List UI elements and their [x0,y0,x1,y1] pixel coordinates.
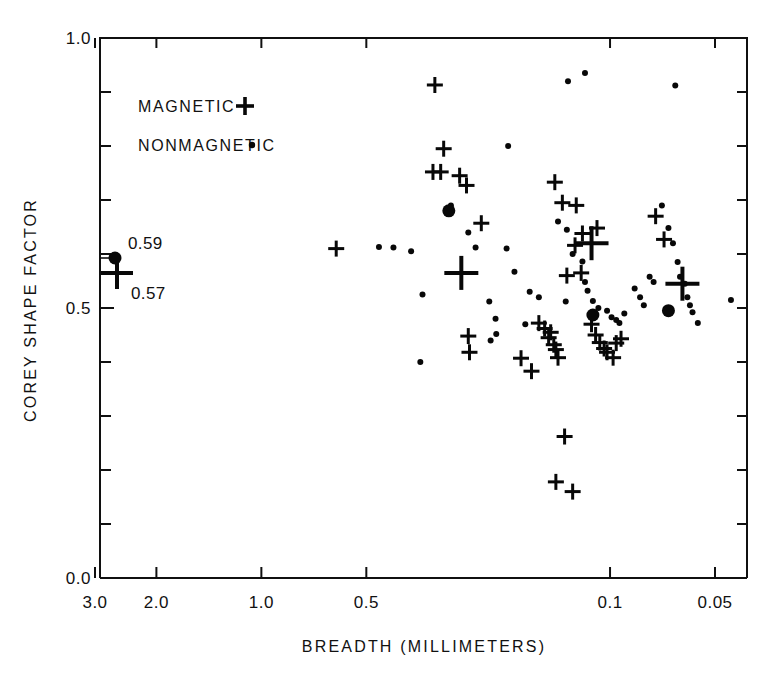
data-point-cross [554,195,570,211]
data-point-dot [465,229,471,235]
data-point-dot [473,245,479,251]
data-point-dot [504,246,510,252]
data-point-dot [390,245,396,251]
y-axis-tick-labels: 1.00.50.0 [66,29,91,588]
legend-marker-cross-icon [236,97,254,115]
x-tick-label: 2.0 [144,593,169,612]
data-points-layer [328,70,734,500]
x-axis-ticks [95,38,715,578]
data-point-dot [632,286,638,292]
series-magnetic-group-means [444,226,699,301]
data-point-cross [433,164,449,180]
data-point-cross [568,197,584,213]
data-point-dot [582,279,588,285]
data-point-dot [505,143,511,149]
data-point-dot [493,316,499,322]
x-axis-title: BREADTH (MILLIMETERS) [302,638,546,655]
data-point-dot [675,259,681,265]
data-point-cross [559,268,575,284]
data-point-dot [408,248,414,254]
data-point-dot [695,320,701,326]
annotation-label-0-59: 0.59 [128,234,163,253]
data-point-dot [417,359,423,365]
data-point-cross [567,237,583,253]
data-point-cross [648,208,664,224]
x-tick-label: 0.05 [697,593,732,612]
data-point-cross [557,429,573,445]
data-point-cross [461,344,477,360]
data-point-cross [523,363,539,379]
data-point-dot [585,288,591,294]
data-point-dot [651,279,657,285]
data-point-dot [616,320,622,326]
y-axis-ticks [100,38,747,578]
x-tick-label: 1.0 [249,593,274,612]
data-point-dot [728,297,734,303]
data-point-dot [536,294,542,300]
data-point-dot [488,337,494,343]
data-point-group-mean-cross [575,226,609,260]
y-tick-label: 0.0 [66,569,91,588]
data-point-cross [565,484,581,500]
data-point-cross [436,141,452,157]
data-point-cross [328,241,344,257]
data-point-dot [659,202,665,208]
data-point-dot [621,310,627,316]
data-point-cross [513,350,529,366]
data-point-dot [420,292,426,298]
scatter-plot: 3.02.01.00.50.10.05 1.00.50.0 0.590.57 M… [0,0,783,689]
series-nonmagnetic [376,70,734,365]
y-axis-title: COREY SHAPE FACTOR [22,198,39,422]
data-point-dot [486,299,492,305]
x-tick-label: 3.0 [82,593,107,612]
data-point-dot [647,274,653,280]
data-point-dot [687,302,693,308]
data-point-group-mean-dot [662,304,675,317]
data-point-cross [460,328,476,344]
data-point-dot [665,225,671,231]
data-point-cross [547,174,563,190]
data-point-cross [548,474,564,490]
data-point-dot [637,294,643,300]
legend-label-magnetic: MAGNETIC [138,98,235,115]
data-point-dot [565,78,571,84]
annotation-label-0-57: 0.57 [131,284,166,303]
data-point-dot [579,259,585,265]
data-point-dot [555,219,561,225]
data-point-cross [573,265,589,281]
data-point-dot [563,299,569,305]
annotation-marker-magnetic-mean [101,257,133,289]
data-point-dot [672,83,678,89]
x-tick-label: 0.1 [597,593,622,612]
data-point-group-mean-dot [442,204,455,217]
data-point-dot [376,244,382,250]
legend: MAGNETICNONMAGNETIC [138,97,276,154]
data-point-dot [604,308,610,314]
data-point-dot [522,321,528,327]
data-point-cross [574,225,590,241]
data-point-cross [427,77,443,93]
data-point-dot [641,302,647,308]
x-axis-tick-labels: 3.02.01.00.50.10.05 [82,593,732,612]
data-point-dot [570,251,576,257]
data-point-dot [527,289,533,295]
data-point-dot [670,240,676,246]
data-point-dot [590,298,596,304]
figure-container: 3.02.01.00.50.10.05 1.00.50.0 0.590.57 M… [0,0,783,689]
data-point-group-mean-cross [665,267,699,301]
data-point-cross [656,231,672,247]
data-point-cross [473,215,489,231]
data-point-dot [493,331,499,337]
data-point-group-mean-dot [586,309,599,322]
annotations-layer: 0.590.57 [100,234,166,303]
series-magnetic [328,77,672,500]
x-tick-label: 0.5 [354,593,379,612]
plot-border [100,38,747,578]
data-point-group-mean-cross [444,256,478,290]
plot-frame [100,38,747,578]
y-tick-label: 0.5 [66,299,91,318]
y-tick-label: 1.0 [66,29,91,48]
data-point-dot [684,294,690,300]
data-point-dot [690,309,696,315]
data-point-dot [511,269,517,275]
